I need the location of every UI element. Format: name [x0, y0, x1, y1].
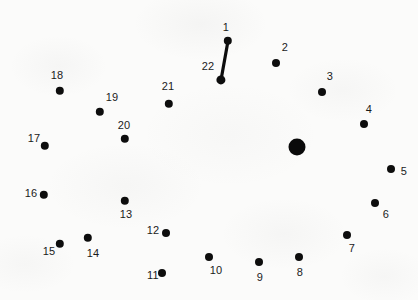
dot-label-22: 22 — [202, 61, 215, 72]
dot-label-10: 10 — [210, 265, 223, 276]
dot-label-12: 12 — [147, 225, 160, 236]
dot-label-17: 17 — [28, 133, 41, 144]
dot-label-6: 6 — [383, 209, 389, 220]
dot-label-20: 20 — [118, 120, 131, 131]
dot-label-16: 16 — [25, 188, 38, 199]
dot-label-14: 14 — [87, 248, 100, 259]
dot-label-13: 13 — [120, 209, 133, 220]
connect-the-dots-canvas: 12345678910111213141516171819202122 — [0, 0, 418, 300]
dot-label-9: 9 — [257, 272, 263, 283]
dot-label-4: 4 — [366, 104, 372, 115]
dot-label-3: 3 — [327, 71, 333, 82]
dot-label-5: 5 — [401, 166, 407, 177]
dot-label-7: 7 — [349, 243, 355, 254]
dot-label-15: 15 — [43, 246, 56, 257]
dot-label-21: 21 — [162, 81, 175, 92]
dot-label-19: 19 — [106, 92, 119, 103]
dot-label-18: 18 — [51, 70, 64, 81]
dot-label-2: 2 — [282, 42, 288, 53]
dot-label-1: 1 — [223, 22, 229, 33]
label-layer: 12345678910111213141516171819202122 — [0, 0, 418, 300]
dot-label-11: 11 — [147, 270, 159, 281]
dot-label-8: 8 — [297, 267, 303, 278]
